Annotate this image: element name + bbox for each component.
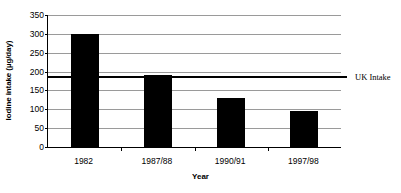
x-axis-tick-mark	[195, 147, 196, 151]
y-axis-title-text: Iodine intake (µg/day)	[5, 40, 14, 120]
bar	[144, 75, 172, 147]
y-axis-tick-label: 150	[20, 85, 44, 95]
y-axis-tick-mark	[45, 53, 48, 54]
plot-area	[47, 15, 341, 148]
x-axis-tick-label: 1982	[74, 156, 93, 166]
y-axis-tick-mark	[45, 147, 48, 148]
y-axis-tick-label: 300	[20, 29, 44, 39]
x-axis-tick-label: 1997/98	[288, 156, 319, 166]
bar	[290, 111, 318, 147]
y-axis-tick-mark	[45, 15, 48, 16]
y-axis-tick-mark	[45, 34, 48, 35]
x-axis-tick-label: 1987/88	[142, 156, 173, 166]
uk-intake-threshold-line	[47, 76, 347, 78]
x-axis-tick-label: 1990/91	[215, 156, 246, 166]
x-axis-tick-mark	[121, 147, 122, 151]
y-axis-tick-label: 350	[20, 10, 44, 20]
y-axis-tick-labels: 050100150200250300350	[18, 0, 44, 193]
y-axis-title: Iodine intake (µg/day)	[0, 0, 18, 160]
bar	[217, 98, 245, 147]
bar	[71, 34, 99, 147]
y-axis-tick-label: 0	[20, 142, 44, 152]
y-axis-tick-label: 250	[20, 48, 44, 58]
y-axis-tick-mark	[45, 72, 48, 73]
y-axis-tick-label: 100	[20, 104, 44, 114]
iodine-intake-bar-chart: Iodine intake (µg/day) 05010015020025030…	[0, 0, 401, 193]
uk-intake-threshold-label: UK Intake	[355, 72, 391, 82]
x-axis-tick-mark	[268, 147, 269, 151]
gridline	[48, 15, 341, 16]
y-axis-tick-label: 50	[20, 123, 44, 133]
y-axis-tick-label: 200	[20, 67, 44, 77]
y-axis-tick-mark	[45, 90, 48, 91]
x-axis-title: Year	[0, 172, 401, 181]
x-axis-title-text: Year	[192, 172, 209, 181]
y-axis-tick-mark	[45, 128, 48, 129]
y-axis-tick-mark	[45, 109, 48, 110]
